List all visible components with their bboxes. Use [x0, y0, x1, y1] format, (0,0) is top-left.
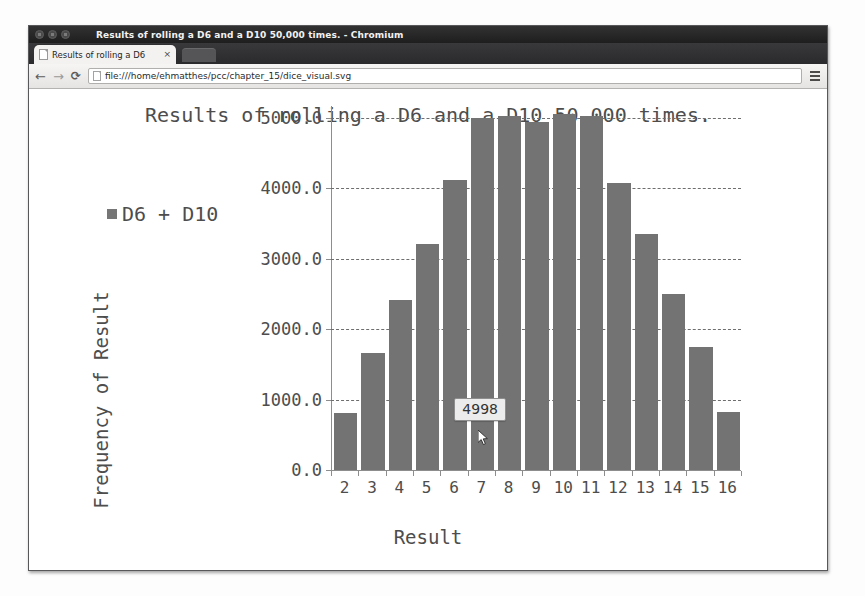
- x-axis-title: Result: [29, 526, 827, 548]
- y-axis-title: Frequency of Result: [90, 260, 112, 540]
- x-axis-tick-label: 13: [636, 478, 655, 497]
- x-axis-tick-label: 14: [663, 478, 682, 497]
- bar-value-tooltip: 4998: [454, 398, 506, 421]
- bar-12[interactable]: [607, 183, 630, 470]
- x-axis-tick: [386, 471, 387, 476]
- x-axis-tick: [741, 471, 742, 476]
- x-axis-line: [331, 470, 741, 471]
- close-window-button[interactable]: [35, 30, 44, 39]
- x-axis-tick: [686, 471, 687, 476]
- forward-arrow-icon[interactable]: →: [53, 70, 64, 83]
- bar-16[interactable]: [717, 412, 740, 470]
- legend-label-d6-d10: D6 + D10: [122, 202, 218, 226]
- x-axis-tick: [468, 471, 469, 476]
- x-axis-tick-label: 11: [581, 478, 600, 497]
- x-axis-tick: [440, 471, 441, 476]
- y-axis-tick: [326, 400, 331, 401]
- x-axis-tick: [550, 471, 551, 476]
- x-axis-tick-label: 12: [608, 478, 627, 497]
- y-axis-tick-label: 0.0: [291, 460, 322, 480]
- bar-6[interactable]: [443, 180, 466, 470]
- x-axis-tick: [495, 471, 496, 476]
- tab-strip: Results of rolling a D6 ×: [29, 43, 827, 64]
- legend-swatch-d6-d10: [107, 209, 117, 219]
- x-axis-tick: [659, 471, 660, 476]
- back-arrow-icon[interactable]: ←: [35, 70, 46, 83]
- y-axis-line: [331, 106, 332, 471]
- y-axis-tick: [326, 118, 331, 119]
- maximize-window-button[interactable]: [61, 30, 70, 39]
- y-axis-tick: [326, 259, 331, 260]
- close-tab-icon[interactable]: ×: [163, 50, 171, 59]
- x-axis-tick: [577, 471, 578, 476]
- bar-4[interactable]: [389, 300, 412, 470]
- page-document-icon: [93, 71, 101, 81]
- minimize-window-button[interactable]: [48, 30, 57, 39]
- x-axis-tick-label: 16: [718, 478, 737, 497]
- y-axis-tick-label: 5000.0: [261, 108, 322, 128]
- hamburger-menu-icon[interactable]: [808, 69, 821, 83]
- bar-5[interactable]: [416, 244, 439, 470]
- x-axis-tick-label: 7: [477, 478, 487, 497]
- new-tab-button[interactable]: [182, 48, 216, 62]
- address-bar-url: file:///home/ehmatthes/pcc/chapter_15/di…: [105, 71, 351, 81]
- x-axis-tick: [413, 471, 414, 476]
- window-titlebar: Results of rolling a D6 and a D10 50,000…: [29, 26, 827, 43]
- bar-9[interactable]: [525, 122, 548, 470]
- reload-icon[interactable]: ⟳: [71, 70, 81, 82]
- y-axis-tick: [326, 329, 331, 330]
- x-axis-tick-label: 9: [531, 478, 541, 497]
- y-axis-tick-label: 1000.0: [261, 390, 322, 410]
- bar-2[interactable]: [334, 413, 357, 470]
- bar-3[interactable]: [361, 353, 384, 470]
- chart-legend[interactable]: D6 + D10: [107, 202, 218, 226]
- document-icon: [39, 49, 48, 60]
- page-content: Results of rolling a D6 and a D10 50,000…: [29, 89, 827, 570]
- bar-11[interactable]: [580, 116, 603, 470]
- x-axis-tick-label: 2: [340, 478, 350, 497]
- x-axis-tick-label: 5: [422, 478, 432, 497]
- y-axis-tick: [326, 188, 331, 189]
- dice-histogram-chart: Results of rolling a D6 and a D10 50,000…: [29, 89, 827, 570]
- gridline: [331, 118, 741, 119]
- browser-window: Results of rolling a D6 and a D10 50,000…: [28, 25, 828, 571]
- x-axis-tick-label: 15: [690, 478, 709, 497]
- bar-15[interactable]: [689, 347, 712, 470]
- y-axis-tick-label: 4000.0: [261, 178, 322, 198]
- bar-10[interactable]: [553, 114, 576, 470]
- browser-toolbar: ← → ⟳ file:///home/ehmatthes/pcc/chapter…: [29, 64, 827, 89]
- x-axis-tick: [714, 471, 715, 476]
- window-title: Results of rolling a D6 and a D10 50,000…: [96, 30, 403, 40]
- page-background: Results of rolling a D6 and a D10 50,000…: [0, 0, 865, 596]
- window-controls: [35, 30, 70, 39]
- x-axis-tick-label: 6: [449, 478, 459, 497]
- tab-label: Results of rolling a D6: [52, 50, 159, 60]
- x-axis-tick: [331, 471, 332, 476]
- x-axis-tick-label: 3: [367, 478, 377, 497]
- address-bar[interactable]: file:///home/ehmatthes/pcc/chapter_15/di…: [88, 68, 802, 84]
- plot-area: 0.01000.02000.03000.04000.05000.0 234567…: [331, 106, 741, 471]
- x-axis-tick: [604, 471, 605, 476]
- x-axis-tick-label: 10: [554, 478, 573, 497]
- x-axis-tick-label: 4: [395, 478, 405, 497]
- y-axis-tick-label: 2000.0: [261, 319, 322, 339]
- x-axis-tick-label: 8: [504, 478, 514, 497]
- bar-13[interactable]: [635, 234, 658, 470]
- bar-14[interactable]: [662, 294, 685, 470]
- x-axis-tick: [522, 471, 523, 476]
- y-axis-tick-label: 3000.0: [261, 249, 322, 269]
- tab-dice-visual[interactable]: Results of rolling a D6 ×: [34, 45, 176, 64]
- x-axis-tick: [632, 471, 633, 476]
- x-axis-tick: [358, 471, 359, 476]
